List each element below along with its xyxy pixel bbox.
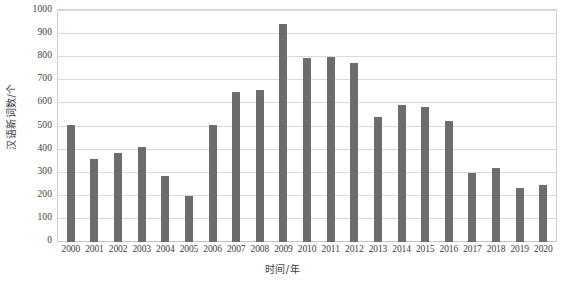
- x-tick-label-2013: 2013: [366, 243, 390, 255]
- x-tick-label-2015: 2015: [413, 243, 437, 255]
- x-tick-label-2003: 2003: [130, 243, 154, 255]
- x-tick-label-2014: 2014: [390, 243, 414, 255]
- x-tick-label-2019: 2019: [508, 243, 532, 255]
- x-tick-label-2017: 2017: [461, 243, 485, 255]
- gridline-900: [58, 33, 556, 34]
- y-tick-label-100: 100: [6, 212, 52, 222]
- x-tick-label-2000: 2000: [59, 243, 83, 255]
- x-axis-ticks: 2000200120022003200420052006200720082009…: [57, 243, 557, 255]
- x-tick-label-2007: 2007: [224, 243, 248, 255]
- x-tick-label-2009: 2009: [272, 243, 296, 255]
- y-tick-label-600: 600: [6, 96, 52, 106]
- y-tick-label-1000: 1000: [6, 4, 52, 14]
- x-tick-label-2004: 2004: [154, 243, 178, 255]
- x-tick-label-2010: 2010: [295, 243, 319, 255]
- gridline-500: [58, 126, 556, 127]
- gridline-100: [58, 218, 556, 219]
- y-tick-label-700: 700: [6, 73, 52, 83]
- y-tick-label-200: 200: [6, 189, 52, 199]
- gridline-200: [58, 195, 556, 196]
- gridline-300: [58, 172, 556, 173]
- x-axis-title-label: 时间/年: [265, 264, 300, 275]
- bar-chart: 汉语新词数/个 01002003004005006007008009001000…: [0, 0, 565, 282]
- y-tick-label-800: 800: [6, 50, 52, 60]
- x-tick-label-2016: 2016: [437, 243, 461, 255]
- gridline-800: [58, 56, 556, 57]
- y-axis-title-label: 汉语新词数/个: [3, 83, 18, 149]
- gridline-400: [58, 149, 556, 150]
- x-tick-label-2012: 2012: [343, 243, 367, 255]
- x-tick-label-2005: 2005: [177, 243, 201, 255]
- y-tick-label-0: 0: [6, 235, 52, 245]
- y-tick-label-900: 900: [6, 27, 52, 37]
- y-tick-label-300: 300: [6, 166, 52, 176]
- x-tick-label-2001: 2001: [83, 243, 107, 255]
- y-tick-label-400: 400: [6, 143, 52, 153]
- plot-area: [57, 9, 557, 242]
- gridline-600: [58, 102, 556, 103]
- gridline-0: [58, 241, 556, 242]
- x-tick-label-2008: 2008: [248, 243, 272, 255]
- x-tick-label-2011: 2011: [319, 243, 343, 255]
- x-tick-label-2006: 2006: [201, 243, 225, 255]
- y-tick-label-500: 500: [6, 120, 52, 130]
- gridline-700: [58, 79, 556, 80]
- x-axis-title: 时间/年: [0, 261, 565, 276]
- x-tick-label-2020: 2020: [532, 243, 556, 255]
- x-tick-label-2002: 2002: [106, 243, 130, 255]
- gridline-1000: [58, 10, 556, 11]
- x-tick-label-2018: 2018: [484, 243, 508, 255]
